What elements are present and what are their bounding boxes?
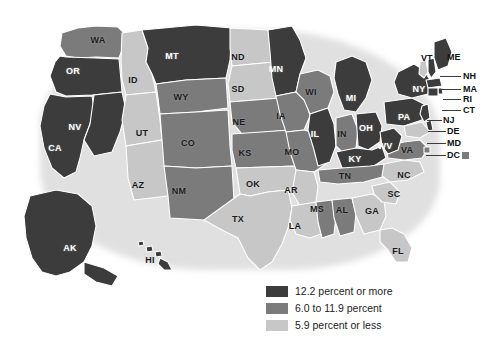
callout-text-de: DE xyxy=(447,126,460,136)
leader-line-nh xyxy=(440,76,461,77)
leader-line-dc xyxy=(426,155,446,156)
leader-line-ct xyxy=(442,110,461,111)
callout-label-de: DE xyxy=(447,126,460,136)
state-wy xyxy=(156,78,228,114)
state-fl xyxy=(380,228,412,262)
legend-item-mid: 6.0 to 11.9 percent xyxy=(266,301,392,316)
state-label-ms: MS xyxy=(310,204,324,214)
callout-label-dc: DC xyxy=(447,150,469,160)
callout-label-nj: NJ xyxy=(443,115,455,125)
state-label-tn: TN xyxy=(339,171,351,181)
state-ak-part xyxy=(84,262,118,286)
legend-swatch-mid xyxy=(266,303,288,314)
state-label-ia: IA xyxy=(276,111,285,121)
callout-label-md: MD xyxy=(447,138,461,148)
callout-text-nh: NH xyxy=(463,71,476,81)
callout-text-ct: CT xyxy=(463,105,475,115)
state-al xyxy=(332,198,356,236)
state-hi-part xyxy=(158,258,172,270)
state-label-ak: AK xyxy=(63,243,76,253)
state-label-pa: PA xyxy=(398,112,410,122)
legend-swatch-high xyxy=(266,286,288,297)
state-label-mo: MO xyxy=(285,147,300,157)
state-hi-part xyxy=(155,251,162,257)
state-az xyxy=(126,140,168,200)
state-label-wi: WI xyxy=(305,87,316,97)
state-label-in: IN xyxy=(337,129,346,139)
state-label-ny: NY xyxy=(413,84,426,94)
callout-text-me: ME xyxy=(447,52,461,62)
legend-swatch-low xyxy=(266,320,288,331)
state-label-ar: AR xyxy=(284,185,297,195)
state-label-ky: KY xyxy=(349,154,362,164)
state-hi-part xyxy=(138,241,144,246)
callout-text-vt: VT xyxy=(421,53,433,63)
state-label-mi: MI xyxy=(346,93,356,103)
state-tn xyxy=(318,164,386,184)
state-label-az: AZ xyxy=(132,180,144,190)
state-co xyxy=(160,110,232,168)
state-label-nc: NC xyxy=(397,170,410,180)
leader-line-nj xyxy=(427,120,442,121)
state-label-il: IL xyxy=(311,129,319,139)
state-label-mt: MT xyxy=(165,51,178,61)
callout-text-dc: DC xyxy=(447,150,460,160)
callout-label-vt: VT xyxy=(421,53,433,63)
legend-label-low: 5.9 percent or less xyxy=(295,320,381,331)
state-label-sc: SC xyxy=(388,189,401,199)
state-dc xyxy=(424,147,430,153)
state-label-nm: NM xyxy=(172,186,186,196)
state-label-or: OR xyxy=(66,66,80,76)
legend-item-high: 12.2 percent or more xyxy=(266,284,392,299)
state-label-ne: NE xyxy=(233,117,246,127)
us-choropleth-map: WAORCANVIDUTAZMTWYCONMNDSDNEKSOKTXMNIAMO… xyxy=(0,0,486,348)
state-label-hi: HI xyxy=(145,255,154,265)
state-ct xyxy=(428,88,438,96)
callout-text-ma: MA xyxy=(463,84,477,94)
state-label-wv: WV xyxy=(378,141,393,151)
state-label-al: AL xyxy=(336,205,348,215)
callout-label-ct: CT xyxy=(463,105,475,115)
callout-text-ri: RI xyxy=(463,94,472,104)
leader-line-md xyxy=(427,143,446,144)
callout-label-ma: MA xyxy=(463,84,477,94)
legend-item-low: 5.9 percent or less xyxy=(266,318,392,333)
leader-line-ri xyxy=(443,99,461,100)
state-label-tx: TX xyxy=(232,214,244,224)
state-label-oh: OH xyxy=(359,123,373,133)
state-label-ga: GA xyxy=(365,206,379,216)
callout-label-me: ME xyxy=(447,52,461,62)
legend-label-high: 12.2 percent or more xyxy=(295,286,392,297)
state-label-fl: FL xyxy=(392,246,403,256)
state-label-va: VA xyxy=(401,145,413,155)
state-mi xyxy=(334,56,372,112)
state-label-nd: ND xyxy=(231,52,244,62)
state-label-la: LA xyxy=(289,221,301,231)
state-label-ut: UT xyxy=(136,128,148,138)
leader-line-de xyxy=(428,131,446,132)
callout-text-md: MD xyxy=(447,138,461,148)
callout-label-ri: RI xyxy=(463,94,472,104)
state-ma xyxy=(426,78,442,88)
dc-swatch-icon xyxy=(462,152,469,159)
state-label-ks: KS xyxy=(239,148,252,158)
state-label-mn: MN xyxy=(269,64,283,74)
legend-label-mid: 6.0 to 11.9 percent xyxy=(295,303,382,314)
leader-line-ma xyxy=(441,89,461,90)
state-or xyxy=(50,56,122,96)
state-label-nv: NV xyxy=(69,122,82,132)
state-hi-part xyxy=(146,246,153,252)
state-label-wa: WA xyxy=(91,35,106,45)
map-legend: 12.2 percent or more6.0 to 11.9 percent5… xyxy=(266,284,392,335)
callout-label-nh: NH xyxy=(463,71,476,81)
state-label-wy: WY xyxy=(174,92,189,102)
state-label-id: ID xyxy=(128,75,137,85)
callout-text-nj: NJ xyxy=(443,115,455,125)
state-label-ok: OK xyxy=(246,179,260,189)
state-label-co: CO xyxy=(181,138,195,148)
state-mt xyxy=(142,25,232,84)
state-label-sd: SD xyxy=(232,84,245,94)
state-label-ca: CA xyxy=(48,143,61,153)
